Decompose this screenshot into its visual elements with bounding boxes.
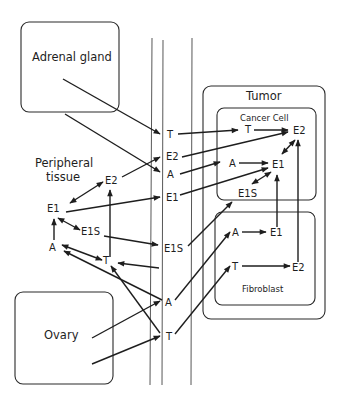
fibro-node-e2: E2 [292, 262, 305, 273]
arrow-circ-a-to-periph-a [64, 251, 162, 300]
circulation-line-right [191, 38, 192, 385]
cancer-node-t: T [244, 124, 252, 135]
periph-node-e1: E1 [47, 203, 60, 214]
arrow-periph-e1s-to-circ [104, 236, 158, 245]
periph-node-a: A [49, 242, 56, 253]
fibro-node-t: T [231, 261, 239, 272]
periph-node-e2: E2 [105, 175, 118, 186]
arrow-circ-t-to-cancer-t [178, 130, 238, 134]
adrenal-gland-box [21, 22, 119, 112]
cancer-cell-label: Cancer Cell [240, 113, 289, 123]
circ-node-t-bottom: T [165, 331, 173, 342]
steroid-pathway-diagram: Adrenal gland Peripheral tissue Ovary Tu… [0, 0, 345, 406]
ovary-label: Ovary [44, 328, 79, 342]
fibroblast-label: Fibroblast [242, 284, 284, 294]
arrow-cancer-e1-e2 [282, 140, 295, 154]
cancer-node-a: A [229, 158, 236, 169]
circ-node-e1: E1 [166, 192, 179, 203]
circ-node-t-top: T [166, 129, 174, 140]
circ-node-e2: E2 [166, 151, 179, 162]
circulation-line-mid [162, 40, 163, 385]
circ-node-a-bottom: A [165, 297, 172, 308]
arrow-circ-a-to-cancer-a [180, 162, 220, 174]
arrow-circ-e1s-to-cancer [188, 202, 232, 246]
cancer-node-e2: E2 [293, 125, 306, 136]
cancer-node-e1s: E1S [238, 188, 257, 199]
arrow-circ-to-periph-t [118, 263, 159, 268]
fibro-node-a: A [232, 227, 239, 238]
adrenal-gland-label: Adrenal gland [32, 50, 112, 64]
periph-node-e1s: E1S [81, 226, 100, 237]
periph-node-t: T [102, 255, 110, 266]
arrow-periph-e1-to-circ-e1 [66, 197, 160, 212]
arrow-periph-e1-e2 [70, 182, 103, 203]
circ-node-e1s: E1S [164, 243, 183, 254]
peripheral-label-2: tissue [46, 170, 80, 184]
arrow-adrenal-to-t [63, 79, 160, 134]
tumor-label: Tumor [245, 89, 282, 103]
cancer-node-e1: E1 [272, 159, 285, 170]
arrow-cancer-e1s-e1 [252, 172, 271, 184]
peripheral-label-1: Peripheral [35, 156, 93, 170]
fibro-node-e1: E1 [270, 227, 283, 238]
circulation-line-left [150, 38, 152, 385]
arrow-periph-e1-e1s [58, 218, 80, 230]
circ-node-a-top: A [167, 169, 174, 180]
arrow-circ-e2-to-cancer-e2 [182, 132, 288, 157]
